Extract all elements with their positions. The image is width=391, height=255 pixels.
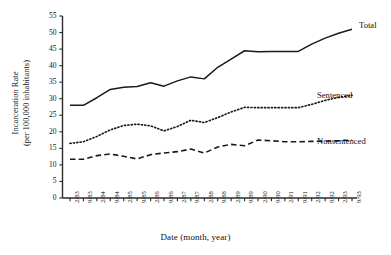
x-axis-tick-label: 9/83 — [86, 191, 93, 203]
x-axis-tick-label: 2/92 — [314, 191, 321, 203]
y-axis-tick-label: 40 — [49, 61, 57, 70]
x-axis-tick-label: 9/89 — [247, 191, 254, 203]
x-axis-tick-label: 9/93 — [355, 191, 362, 203]
x-axis-tick-label: 9/90 — [274, 191, 281, 203]
x-axis-tick-label: 2/84 — [99, 191, 106, 203]
x-axis-tick-label: 2/85 — [126, 191, 133, 203]
x-axis-tick-label: 9/88 — [220, 191, 227, 203]
y-axis-tick-label: 5 — [53, 176, 57, 185]
x-axis-tick-label: 2/88 — [207, 191, 214, 203]
x-axis-tick-label: 9/84 — [113, 191, 120, 203]
y-axis-tick-label: 50 — [49, 28, 57, 37]
x-axis-tick-label: 2/86 — [153, 191, 160, 203]
y-axis-tick-label: 0 — [53, 193, 57, 202]
y-axis-title-container: Incarceration Rate (per 100,000 inhabita… — [8, 28, 34, 178]
y-axis-tick-label: 35 — [49, 77, 57, 86]
y-axis-tick-label: 20 — [49, 127, 57, 136]
chart-series-lines — [70, 29, 352, 159]
y-axis-tick-label: 55 — [49, 11, 57, 20]
x-axis-tick-label: 9/85 — [140, 191, 147, 203]
series-line-sentenced — [70, 95, 352, 143]
series-line-total — [70, 29, 352, 105]
y-axis-tick-label: 10 — [49, 160, 57, 169]
y-axis-title: Incarceration Rate (per 100,000 inhabita… — [11, 60, 32, 146]
series-label-nonsentenced: Nonsentenced — [317, 136, 366, 146]
incarceration-rate-chart: Incarceration Rate (per 100,000 inhabita… — [0, 0, 391, 255]
chart-plot-area — [0, 0, 391, 255]
x-axis-tick-label: 2/83 — [73, 191, 80, 203]
x-axis-tick-label: 2/91 — [287, 191, 294, 203]
x-axis-tick-label: 9/91 — [301, 191, 308, 203]
x-axis-tick-label: 2/93 — [341, 191, 348, 203]
y-axis-title-line-2: (per 100,000 inhabitants) — [21, 60, 32, 146]
y-axis-tick-label: 45 — [49, 44, 57, 53]
y-axis-tick-label: 15 — [49, 143, 57, 152]
y-axis-tick-label: 30 — [49, 94, 57, 103]
series-label-sentenced: Sentenced — [317, 90, 352, 100]
x-axis-tick-label: 2/87 — [180, 191, 187, 203]
x-axis-tick-label: 2/90 — [261, 191, 268, 203]
series-label-total: Total — [359, 20, 377, 30]
x-axis-tick-label: 9/92 — [328, 191, 335, 203]
y-axis-title-line-1: Incarceration Rate — [11, 60, 22, 146]
x-axis-tick-label: 9/87 — [193, 191, 200, 203]
x-axis-tick-label: 2/89 — [234, 191, 241, 203]
x-axis-tick-label: 9/86 — [167, 191, 174, 203]
y-axis-tick-label: 25 — [49, 110, 57, 119]
series-line-nonsentenced — [70, 140, 352, 159]
x-axis-title: Date (month, year) — [0, 232, 391, 242]
